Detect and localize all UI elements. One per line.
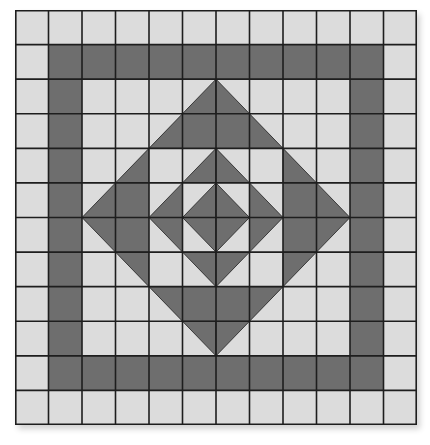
grid-cell xyxy=(116,321,150,356)
grid-cell xyxy=(250,252,284,287)
grid-cell xyxy=(350,10,384,45)
grid-cell xyxy=(250,148,284,183)
grid-cell xyxy=(82,45,116,80)
grid-cell xyxy=(317,114,351,149)
grid-cell xyxy=(317,321,351,356)
grid-cell xyxy=(82,321,116,356)
grid-cell xyxy=(250,390,284,425)
grid-cell xyxy=(250,321,284,356)
grid-cell xyxy=(183,390,217,425)
grid-cell xyxy=(250,45,284,80)
grid-cell xyxy=(384,148,418,183)
grid-cell xyxy=(317,148,351,183)
grid-cell xyxy=(15,252,49,287)
grid-cell xyxy=(283,390,317,425)
grid-cell xyxy=(317,10,351,45)
grid-cell xyxy=(149,356,183,391)
grid-cell xyxy=(350,287,384,322)
grid-cell xyxy=(283,321,317,356)
grid-cell xyxy=(49,218,83,253)
grid-cell xyxy=(317,287,351,322)
grid-cell xyxy=(317,356,351,391)
grid-cell xyxy=(350,252,384,287)
grid-cell xyxy=(116,114,150,149)
grid-cell xyxy=(384,10,418,45)
grid-cell xyxy=(15,45,49,80)
grid-cell xyxy=(350,79,384,114)
grid-cell xyxy=(216,45,250,80)
grid-cell xyxy=(350,218,384,253)
grid-cell xyxy=(317,45,351,80)
grid-cell xyxy=(283,10,317,45)
grid-cell xyxy=(116,287,150,322)
grid-cell xyxy=(82,148,116,183)
grid-cell xyxy=(149,390,183,425)
grid-cell xyxy=(384,252,418,287)
grid-cell xyxy=(82,252,116,287)
grid-cell xyxy=(183,10,217,45)
grid-cell xyxy=(250,79,284,114)
grid-cell xyxy=(116,183,150,218)
grid-cell xyxy=(250,356,284,391)
grid-cell xyxy=(183,356,217,391)
grid-cell xyxy=(149,252,183,287)
grid-cell xyxy=(15,10,49,45)
grid-cell xyxy=(283,114,317,149)
grid-cell xyxy=(15,287,49,322)
grid-cell xyxy=(149,79,183,114)
grid-cell xyxy=(15,356,49,391)
grid-cell xyxy=(116,45,150,80)
grid-cell xyxy=(15,321,49,356)
grid-cell xyxy=(149,10,183,45)
grid-cell xyxy=(49,321,83,356)
grid-cell xyxy=(149,148,183,183)
grid-cell xyxy=(317,79,351,114)
grid-cell xyxy=(350,45,384,80)
grid-cell xyxy=(317,252,351,287)
grid-cell xyxy=(49,356,83,391)
grid-cell xyxy=(283,183,317,218)
grid-cell xyxy=(384,114,418,149)
grid-cell xyxy=(283,218,317,253)
grid-cell xyxy=(283,287,317,322)
grid-cell xyxy=(15,183,49,218)
grid-cell xyxy=(49,79,83,114)
grid-cell xyxy=(384,218,418,253)
grid-cell xyxy=(116,79,150,114)
grid-cell xyxy=(384,183,418,218)
grid-cell xyxy=(15,390,49,425)
grid-cell xyxy=(49,148,83,183)
grid-cell xyxy=(82,356,116,391)
grid-cell xyxy=(384,356,418,391)
grid-canvas xyxy=(15,10,417,425)
grid-cell xyxy=(384,321,418,356)
grid-cell xyxy=(350,148,384,183)
grid-cell xyxy=(15,148,49,183)
grid-cell xyxy=(49,10,83,45)
grid-cell xyxy=(82,114,116,149)
grid-cell xyxy=(49,183,83,218)
grid-cell xyxy=(216,287,250,322)
grid-cell xyxy=(283,45,317,80)
grid-cell xyxy=(283,356,317,391)
grid-cell xyxy=(350,114,384,149)
grid-cell xyxy=(149,321,183,356)
grid-cell xyxy=(183,287,217,322)
grid-cell xyxy=(82,79,116,114)
grid-cell xyxy=(82,10,116,45)
grid-cell xyxy=(183,45,217,80)
grid-cell xyxy=(283,79,317,114)
grid-cell xyxy=(350,390,384,425)
grid-cell xyxy=(250,10,284,45)
grid-cell xyxy=(216,390,250,425)
grid-cell xyxy=(317,390,351,425)
grid-cell xyxy=(82,287,116,322)
grid-cell xyxy=(350,321,384,356)
grid-cell xyxy=(216,10,250,45)
quilt-grid xyxy=(15,10,417,425)
grid-cell xyxy=(15,79,49,114)
grid-cell xyxy=(49,252,83,287)
grid-cell xyxy=(216,114,250,149)
grid-cell xyxy=(15,114,49,149)
grid-cell xyxy=(350,356,384,391)
